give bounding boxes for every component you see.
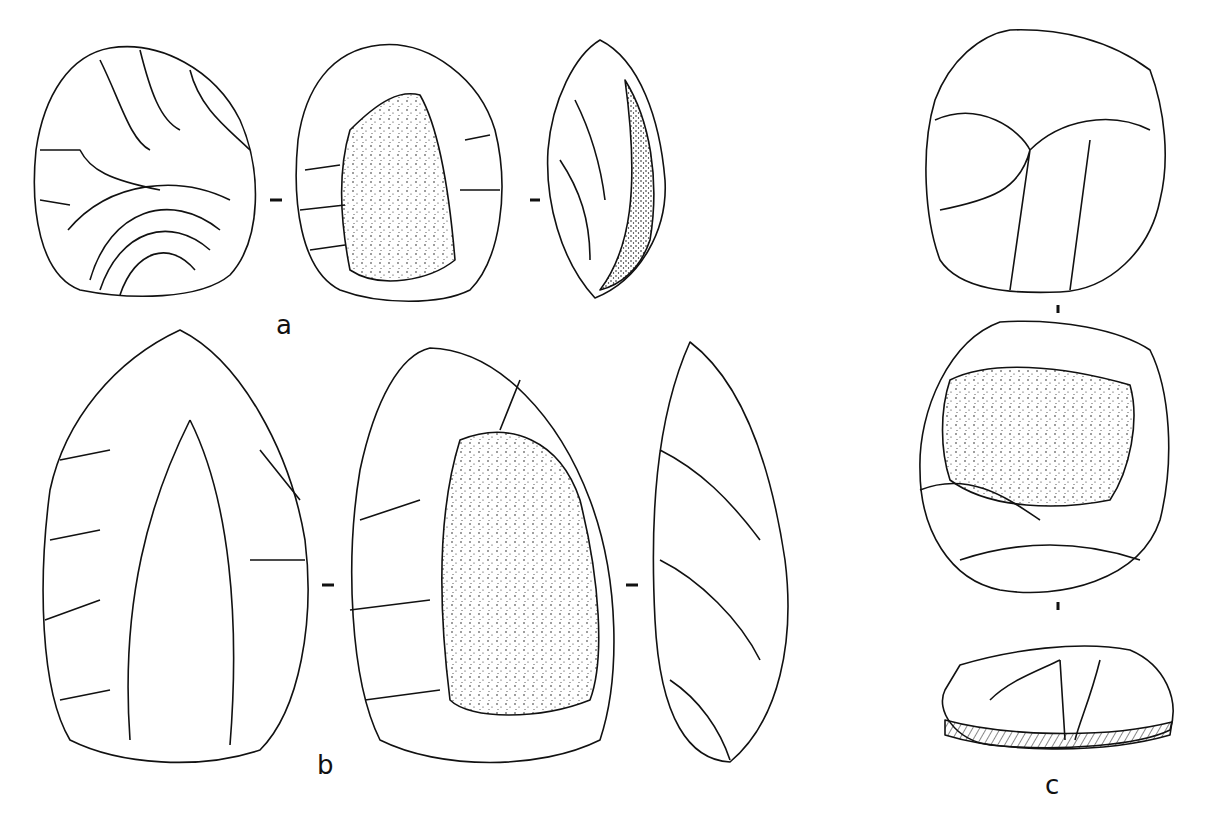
specimen-label-a: a — [276, 312, 292, 338]
specimen-a-profile — [548, 40, 666, 298]
specimen-b-profile — [653, 342, 788, 762]
specimen-a-face — [34, 47, 255, 297]
specimen-c-face — [926, 30, 1165, 293]
figure-plate: a b c — [0, 0, 1205, 822]
specimen-label-b: b — [317, 752, 334, 778]
specimen-a-cortex — [296, 45, 502, 302]
specimen-c-cortex — [920, 321, 1169, 592]
specimen-label-c: c — [1045, 772, 1059, 798]
specimen-b-face — [43, 330, 308, 762]
artifact-drawings — [0, 0, 1205, 822]
specimen-b-cortex — [350, 348, 614, 763]
specimen-c-profile — [942, 646, 1173, 749]
